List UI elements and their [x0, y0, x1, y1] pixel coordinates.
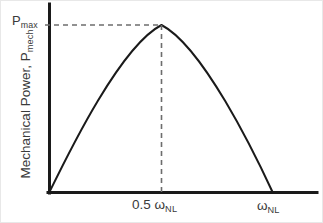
pmax-label-subscript: max	[21, 20, 38, 30]
y-axis-label-subscript: mech	[25, 29, 35, 52]
pmax-tick-label: Pmax	[12, 14, 38, 27]
y-axis-label: Mechanical Power, Pmech	[19, 9, 33, 199]
mechanical-power-chart: Mechanical Power, Pmech Pmax 0.5 ωNL ωNL	[0, 0, 323, 223]
plot-area	[1, 1, 323, 223]
half-omega-nl-subscript: NL	[165, 204, 177, 214]
y-axis-label-main: Mechanical Power, P	[18, 52, 33, 178]
omega-nl-subscript: NL	[268, 205, 280, 215]
pmax-label-main: P	[12, 13, 21, 28]
omega-nl-main: ω	[257, 198, 268, 213]
x-tick-label-omega-nl: ωNL	[257, 199, 280, 213]
x-tick-label-half-omega-nl: 0.5 ωNL	[132, 198, 177, 212]
half-omega-nl-main: 0.5 ω	[132, 197, 165, 212]
